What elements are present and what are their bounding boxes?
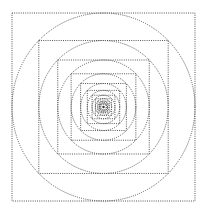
shape-group bbox=[12, 13, 195, 201]
nested-squares-circles-diagram bbox=[0, 0, 203, 212]
center-dot bbox=[102, 106, 104, 108]
